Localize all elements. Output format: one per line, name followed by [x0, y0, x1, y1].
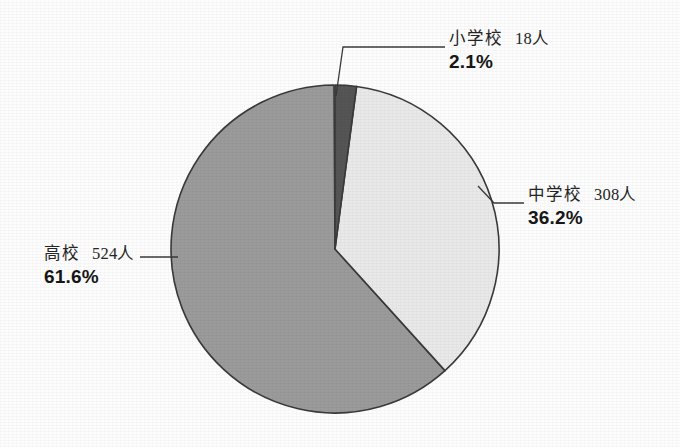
- slice-label-koko-percent: 61.6%: [44, 266, 135, 288]
- slice-label-chugakko-name: 中学校: [528, 185, 582, 203]
- slice-label-koko-count: 524人: [92, 244, 135, 263]
- pie-chart-figure: 小学校18人 2.1% 中学校308人 36.2% 高校524人 61.6%: [0, 0, 680, 447]
- slice-label-shogakko: 小学校18人 2.1%: [449, 28, 549, 73]
- slice-label-shogakko-percent: 2.1%: [449, 51, 549, 73]
- slice-label-chugakko-count: 308人: [594, 185, 637, 204]
- slice-label-koko: 高校524人 61.6%: [44, 243, 135, 288]
- slice-label-chugakko-line: 中学校308人: [528, 185, 637, 204]
- slice-label-shogakko-name: 小学校: [449, 29, 503, 47]
- slice-label-koko-name: 高校: [44, 244, 80, 262]
- slice-label-shogakko-count: 18人: [515, 29, 549, 48]
- slice-label-koko-line: 高校524人: [44, 244, 135, 263]
- slice-label-shogakko-line: 小学校18人: [449, 29, 549, 48]
- slice-label-chugakko-percent: 36.2%: [528, 207, 637, 229]
- slice-label-chugakko: 中学校308人 36.2%: [528, 184, 637, 229]
